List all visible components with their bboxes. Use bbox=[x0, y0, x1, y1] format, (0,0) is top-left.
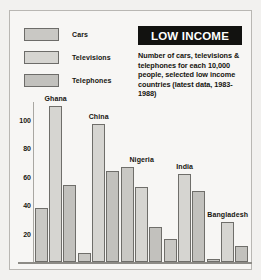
legend-item-cars: Cars bbox=[24, 26, 134, 43]
bar-ghana-telephones bbox=[63, 185, 76, 262]
bar-india-televisions bbox=[178, 174, 191, 262]
group-label-bangladesh: Bangladesh bbox=[207, 211, 248, 218]
group-label-india: India bbox=[176, 163, 193, 170]
bar-china-televisions bbox=[92, 124, 105, 262]
title-description: Number of cars, televisions & telephones… bbox=[138, 51, 242, 99]
bar-nigeria-cars bbox=[121, 167, 134, 262]
bar-nigeria-televisions bbox=[135, 187, 148, 262]
legend-swatch-televisions bbox=[24, 51, 59, 64]
bar-china-telephones bbox=[106, 171, 119, 262]
bar-india-telephones bbox=[192, 191, 205, 262]
legend-label: Televisions bbox=[72, 54, 111, 61]
chart-page: 20406080100 GhanaChinaNigeriaIndiaBangla… bbox=[0, 0, 261, 280]
bar-ghana-televisions bbox=[49, 106, 62, 262]
bar-bangladesh-televisions bbox=[221, 222, 234, 262]
group-label-nigeria: Nigeria bbox=[129, 156, 153, 163]
bar-bangladesh-telephones bbox=[235, 246, 248, 262]
bar-china-cars bbox=[78, 253, 91, 262]
legend-label: Telephones bbox=[72, 77, 111, 84]
bar-india-cars bbox=[164, 239, 177, 262]
legend-item-televisions: Televisions bbox=[24, 49, 134, 66]
legend-label: Cars bbox=[72, 31, 88, 38]
title-card: LOW INCOME Number of cars, televisions &… bbox=[138, 26, 242, 99]
legend-swatch-cars bbox=[24, 28, 59, 41]
legend-swatch-telephones bbox=[24, 74, 59, 87]
bar-ghana-cars bbox=[35, 208, 48, 262]
legend: CarsTelevisionsTelephones bbox=[24, 26, 134, 95]
title-banner: LOW INCOME bbox=[138, 26, 242, 45]
group-label-china: China bbox=[89, 113, 109, 120]
legend-item-telephones: Telephones bbox=[24, 72, 134, 89]
group-label-ghana: Ghana bbox=[45, 95, 67, 102]
page-title: LOW INCOME bbox=[151, 30, 229, 42]
bar-nigeria-telephones bbox=[149, 227, 162, 263]
x-axis-baseline bbox=[18, 262, 252, 264]
